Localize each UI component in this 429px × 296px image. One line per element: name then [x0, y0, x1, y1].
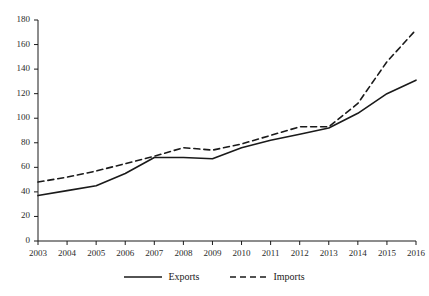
y-axis-tick-label: 0 [0, 236, 30, 245]
legend-swatch-dashed-icon [230, 273, 268, 281]
y-axis-tick-label: 20 [0, 211, 30, 220]
x-axis-tick-label: 2006 [109, 249, 141, 258]
x-axis-ticks [38, 241, 416, 245]
x-axis-tick-label: 2016 [400, 249, 429, 258]
legend-label-imports: Imports [274, 272, 305, 282]
y-axis-ticks [34, 20, 38, 241]
x-axis-tick-label: 2009 [196, 249, 228, 258]
legend-entry-exports: Exports [124, 272, 199, 282]
legend-entry-imports: Imports [230, 272, 305, 282]
x-axis-tick-label: 2010 [226, 249, 258, 258]
y-axis-tick-label: 140 [0, 64, 30, 73]
legend-label-exports: Exports [168, 272, 199, 282]
x-axis-tick-label: 2005 [80, 249, 112, 258]
legend-swatch-solid-icon [124, 273, 162, 281]
x-axis-tick-label: 2004 [51, 249, 83, 258]
x-axis-tick-label: 2011 [255, 249, 287, 258]
series-line-imports [38, 30, 416, 182]
x-axis-tick-label: 2013 [313, 249, 345, 258]
y-axis-tick-label: 40 [0, 187, 30, 196]
x-axis-tick-label: 2003 [22, 249, 54, 258]
x-axis-tick-label: 2007 [138, 249, 170, 258]
x-axis-tick-label: 2008 [167, 249, 199, 258]
y-axis-tick-label: 80 [0, 138, 30, 147]
series-line-exports [38, 80, 416, 195]
y-axis-tick-label: 120 [0, 89, 30, 98]
x-axis-tick-label: 2014 [342, 249, 374, 258]
y-axis-tick-label: 180 [0, 15, 30, 24]
chart-legend: Exports Imports [0, 272, 429, 282]
line-chart: 020406080100120140160180 200320042005200… [0, 0, 429, 296]
y-axis-tick-label: 60 [0, 162, 30, 171]
y-axis-tick-label: 160 [0, 40, 30, 49]
x-axis-tick-label: 2015 [371, 249, 403, 258]
y-axis-tick-label: 100 [0, 113, 30, 122]
x-axis-tick-label: 2012 [284, 249, 316, 258]
